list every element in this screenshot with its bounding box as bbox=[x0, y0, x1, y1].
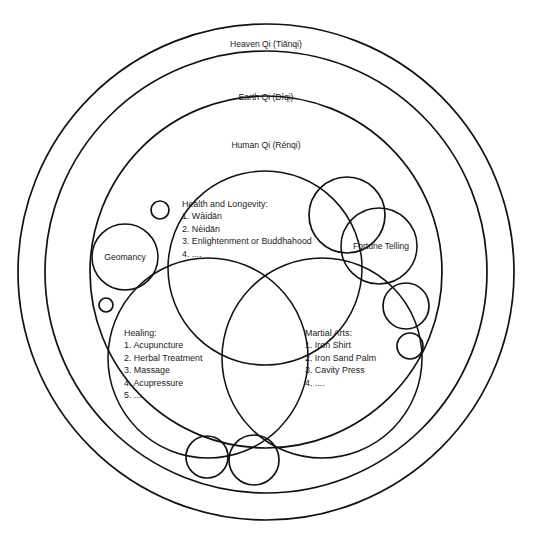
ring-earth-qi[interactable] bbox=[45, 51, 487, 493]
text-block-health-and-longevity: Health and Longevity: 1. Wàidān 2. Nèidā… bbox=[182, 199, 312, 259]
block-item: 2. Iron Sand Palm bbox=[305, 353, 376, 363]
ring-label-earth-qi: Earth Qi (Dìqi) bbox=[239, 92, 294, 102]
qi-diagram-canvas: Heaven Qi (Tiānqi) Earth Qi (Dìqi) Human… bbox=[0, 0, 533, 546]
ring-label-heaven-qi: Heaven Qi (Tiānqi) bbox=[230, 39, 302, 49]
ring-labels-group: Heaven Qi (Tiānqi) Earth Qi (Dìqi) Human… bbox=[230, 39, 302, 150]
node-label-geomancy: Geomancy bbox=[104, 252, 146, 262]
block-item: 2. Nèidān bbox=[182, 224, 220, 234]
block-item: 1. Acupuncture bbox=[124, 340, 183, 350]
block-item: 3. Cavity Press bbox=[305, 365, 365, 375]
block-item: 1. Iron Shirt bbox=[305, 340, 351, 350]
circle-left-tiny[interactable] bbox=[99, 298, 113, 312]
block-item: 3. Massage bbox=[124, 365, 170, 375]
ring-label-human-qi: Human Qi (Rénqi) bbox=[231, 140, 300, 150]
block-heading-martial-arts: Martial Arts: bbox=[305, 328, 352, 338]
qi-venn-diagram: Heaven Qi (Tiānqi) Earth Qi (Dìqi) Human… bbox=[0, 0, 533, 546]
block-item: 5. .... bbox=[124, 390, 144, 400]
text-block-martial-arts: Martial Arts: 1. Iron Shirt 2. Iron Sand… bbox=[305, 328, 376, 388]
circle-right-mid[interactable] bbox=[383, 283, 429, 329]
domain-circles-group bbox=[108, 171, 422, 458]
block-item: 2. Herbal Treatment bbox=[124, 353, 203, 363]
block-heading-health-and-longevity: Health and Longevity: bbox=[182, 199, 268, 209]
block-item: 4. .... bbox=[305, 378, 325, 388]
block-item: 3. Enlightenment or Buddhahood bbox=[182, 236, 312, 246]
block-heading-healing: Healing: bbox=[124, 328, 157, 338]
block-item: 4. Acupressure bbox=[124, 378, 183, 388]
circle-bottom-right[interactable] bbox=[229, 435, 279, 485]
text-block-healing: Healing: 1. Acupuncture 2. Herbal Treatm… bbox=[124, 328, 203, 400]
circle-upper-left-small[interactable] bbox=[151, 201, 169, 219]
block-item: 4. .... bbox=[182, 249, 202, 259]
node-label-fortune-telling: Fortune Telling bbox=[353, 241, 409, 251]
block-item: 1. Wàidān bbox=[182, 211, 222, 221]
